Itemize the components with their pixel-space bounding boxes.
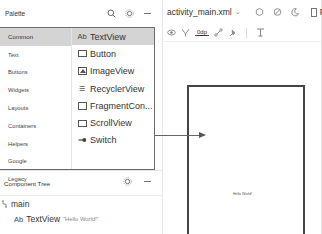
component-tree-title: Component Tree	[4, 180, 50, 187]
design-surface-icon[interactable]	[255, 8, 264, 17]
default-margin-dropdown[interactable]: 0dp	[195, 29, 209, 36]
scroll-icon	[77, 118, 87, 128]
widget-textview[interactable]: Ab TextView	[72, 28, 154, 45]
search-icon[interactable]	[106, 8, 116, 18]
guidelines-icon[interactable]	[256, 28, 265, 37]
device-preview[interactable]: Hello World!	[187, 85, 305, 234]
layout-editor: activity_main.xml ⌄ Pi 0dp	[163, 0, 322, 234]
tree-node-textview[interactable]: Ab TextView "Hello World!"	[14, 214, 99, 224]
drag-arrow-icon	[199, 132, 206, 138]
button-icon	[77, 49, 87, 59]
widget-fragmentcontainer[interactable]: FragmentCon...	[72, 97, 154, 114]
switch-icon	[77, 135, 87, 145]
tree-node-hint: "Hello World!"	[63, 216, 99, 222]
drag-arrow-line	[155, 135, 199, 136]
editor-toolbar: 0dp	[163, 24, 321, 42]
category-helpers[interactable]: Helpers	[0, 135, 71, 153]
fragment-icon	[77, 101, 87, 111]
file-tab[interactable]: activity_main.xml	[167, 7, 232, 17]
constraint-layout-icon	[2, 200, 10, 209]
palette-title: Palette	[5, 10, 25, 17]
gear-icon[interactable]	[122, 176, 132, 186]
widget-recyclerview[interactable]: ☰ RecyclerView	[72, 80, 154, 97]
widget-scrollview[interactable]: ScrollView	[72, 114, 154, 131]
infer-constraints-icon[interactable]	[228, 28, 237, 37]
category-google[interactable]: Google	[0, 153, 71, 171]
palette-widget-list: Ab TextView Button ImageView ☰ RecyclerV…	[72, 28, 154, 169]
component-tree: main Ab TextView "Hello World!"	[0, 195, 163, 234]
night-mode-icon[interactable]	[291, 8, 300, 17]
gear-icon[interactable]	[124, 8, 134, 18]
category-text[interactable]: Text	[0, 46, 71, 64]
image-icon	[77, 66, 87, 76]
category-layouts[interactable]: Layouts	[0, 99, 71, 117]
list-icon: ☰	[77, 84, 87, 94]
canvas-textview[interactable]: Hello World!	[233, 192, 252, 196]
ab-icon: Ab	[14, 215, 23, 224]
chevron-down-icon[interactable]: ⌄	[235, 8, 241, 16]
minimize-icon[interactable]	[142, 8, 152, 18]
widget-button[interactable]: Button	[72, 45, 154, 62]
palette-header-icons	[106, 8, 152, 18]
minimize-icon[interactable]	[142, 176, 152, 186]
widget-imageview[interactable]: ImageView	[72, 63, 154, 80]
category-containers[interactable]: Containers	[0, 117, 71, 135]
clear-constraints-icon[interactable]	[214, 28, 223, 37]
magnet-icon[interactable]	[181, 28, 190, 37]
palette-popup: Common Text Buttons Widgets Layouts Cont…	[0, 27, 155, 170]
tree-node-main[interactable]: main	[2, 199, 29, 209]
divider	[246, 28, 247, 38]
palette-category-list: Common Text Buttons Widgets Layouts Cont…	[0, 28, 72, 169]
category-widgets[interactable]: Widgets	[0, 81, 71, 99]
left-panel: Palette Common Text Buttons Widgets Layo…	[0, 0, 163, 234]
device-icon[interactable]	[311, 8, 317, 17]
category-common[interactable]: Common	[0, 28, 71, 46]
eye-icon[interactable]	[167, 28, 176, 37]
component-tree-icons	[122, 176, 152, 186]
orientation-icon[interactable]	[273, 8, 282, 17]
category-buttons[interactable]: Buttons	[0, 64, 71, 82]
ab-icon: Ab	[77, 32, 87, 42]
editor-tab-row: activity_main.xml ⌄ Pi	[163, 0, 321, 24]
widget-switch[interactable]: Switch	[72, 132, 154, 149]
